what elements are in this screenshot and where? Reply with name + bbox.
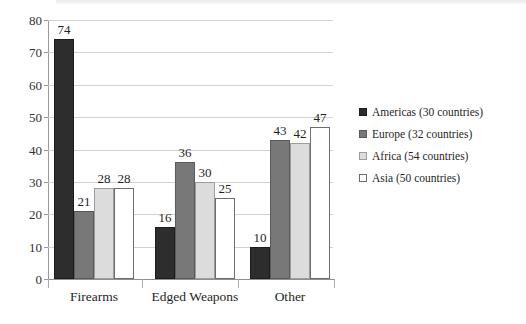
y-axis-tick (44, 85, 48, 86)
bar (250, 247, 270, 279)
bar-value-label: 30 (189, 166, 221, 179)
chart-legend: Americas (30 countries)Europe (32 countr… (359, 101, 522, 189)
group-separator-tick (238, 279, 239, 288)
y-axis-tick-label: 20 (29, 208, 42, 221)
y-axis-tick-label: 50 (29, 111, 42, 124)
group-separator-tick (142, 279, 143, 288)
legend-swatch-icon (359, 152, 367, 160)
y-axis-tick-labels: 01020304050607080 (0, 0, 42, 324)
bar-value-label: 74 (48, 23, 80, 36)
bar-value-label: 25 (209, 182, 241, 195)
gridline (48, 85, 333, 86)
gridline (48, 20, 333, 21)
y-axis-tick-label: 30 (29, 176, 42, 189)
y-axis-tick-label: 80 (29, 14, 42, 27)
y-axis-tick-label: 70 (29, 46, 42, 59)
legend-swatch-icon (359, 174, 367, 182)
bar (290, 143, 310, 279)
x-axis-category-label: Other (225, 289, 355, 304)
legend-item-europe: Europe (32 countries) (359, 123, 522, 145)
bar (74, 211, 94, 279)
bar (310, 127, 330, 279)
y-axis-tick (44, 214, 48, 215)
y-axis-tick-label: 60 (29, 79, 42, 92)
legend-item-americas: Americas (30 countries) (359, 101, 522, 123)
group-separator-tick (334, 279, 335, 288)
bar (175, 162, 195, 279)
y-axis-tick (44, 117, 48, 118)
bar (54, 39, 74, 279)
y-axis-tick-label: 40 (29, 144, 42, 157)
legend-swatch-icon (359, 130, 367, 138)
legend-label: Asia (50 countries) (372, 172, 460, 184)
y-axis-tick (44, 182, 48, 183)
gridline (48, 52, 333, 53)
legend-item-africa: Africa (54 countries) (359, 145, 522, 167)
y-axis-tick (44, 150, 48, 151)
group-separator-tick (48, 279, 49, 288)
y-axis-tick-label: 0 (36, 273, 43, 286)
bar (94, 188, 114, 279)
x-axis-line (48, 279, 334, 280)
legend-label: Africa (54 countries) (372, 150, 468, 162)
legend-item-asia: Asia (50 countries) (359, 167, 522, 189)
legend-swatch-icon (359, 108, 367, 116)
legend-label: Americas (30 countries) (372, 106, 483, 118)
plot-area: 742128281636302510434247 (48, 20, 333, 279)
bar-value-label: 47 (304, 111, 336, 124)
bar (215, 198, 235, 279)
bar-value-label: 28 (108, 172, 140, 185)
bar (155, 227, 175, 279)
bar (114, 188, 134, 279)
bar (195, 182, 215, 279)
y-axis-tick (44, 52, 48, 53)
bar (270, 140, 290, 279)
y-axis-tick (44, 20, 48, 21)
legend-label: Europe (32 countries) (372, 128, 472, 140)
bar-value-label: 36 (169, 146, 201, 159)
gridline (48, 117, 333, 118)
y-axis-tick-label: 10 (29, 241, 42, 254)
y-axis-tick (44, 247, 48, 248)
